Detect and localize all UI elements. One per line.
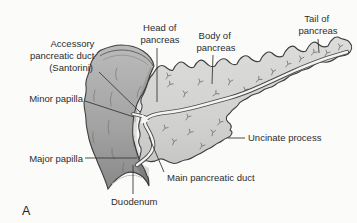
label-tail-line1: Tail of xyxy=(304,13,329,24)
label-head-line2: pancreas xyxy=(140,34,179,45)
label-accessory-line2: pancreatic duct xyxy=(30,50,95,61)
label-major-papilla: Major papilla xyxy=(29,153,84,164)
label-accessory-line3: (Santorini) xyxy=(49,62,93,73)
label-body-line1: Body of xyxy=(199,30,232,41)
figure-canvas: Accessory pancreatic duct (Santorini) Mi… xyxy=(0,0,357,223)
label-body-line2: pancreas xyxy=(196,42,235,53)
label-duodenum: Duodenum xyxy=(111,196,158,207)
pancreas-shape xyxy=(139,37,352,164)
label-body-of-pancreas: Body of pancreas xyxy=(196,30,235,53)
label-tail-line2: pancreas xyxy=(298,25,337,36)
panel-letter: A xyxy=(22,204,31,218)
pancreas-body xyxy=(139,37,352,164)
label-head-line1: Head of xyxy=(143,22,177,33)
label-uncinate-process: Uncinate process xyxy=(248,132,322,143)
anatomy-figure-pancreas-duodenum: Accessory pancreatic duct (Santorini) Mi… xyxy=(0,0,357,223)
label-main-pancreatic-duct: Main pancreatic duct xyxy=(167,172,255,183)
label-head-of-pancreas: Head of pancreas xyxy=(140,22,179,45)
label-accessory-duct: Accessory pancreatic duct (Santorini) xyxy=(30,38,97,73)
label-accessory-line1: Accessory xyxy=(51,38,95,49)
label-tail-of-pancreas: Tail of pancreas xyxy=(298,13,337,36)
label-minor-papilla: Minor papilla xyxy=(29,93,84,104)
